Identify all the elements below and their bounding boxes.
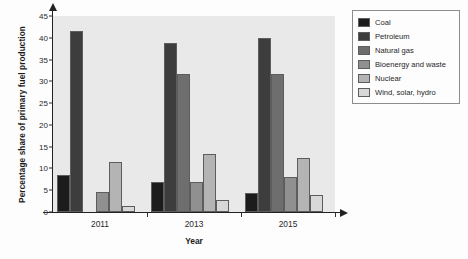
y-tick-label: 5 [44,186,48,195]
x-tick-label-2013: 2013 [185,219,204,229]
y-tick-label: 30 [39,77,48,86]
bar [216,200,229,212]
y-tick-mark [49,37,53,38]
bar [177,74,190,212]
bar [70,31,83,212]
x-tick-label-2015: 2015 [279,219,298,229]
legend-label: Petroleum [375,32,410,41]
y-tick-mark [49,124,53,125]
bar [245,193,258,212]
y-tick-mark [49,146,53,147]
y-tick-mark [49,103,53,104]
legend-item-natural-gas[interactable]: Natural gas [358,43,455,57]
x-tick-mark [241,213,242,217]
legend-swatch-icon [358,18,370,27]
y-axis-arrow-icon [49,3,57,11]
legend-swatch-icon [358,88,370,97]
legend-item-bioenergy-and-waste[interactable]: Bioenergy and waste [358,57,455,71]
bar [109,162,122,212]
x-tick-label-2011: 2011 [91,219,109,229]
bar [57,175,70,212]
x-tick-mark [147,213,148,217]
bar [258,38,271,212]
legend-swatch-icon [358,74,370,83]
bar [310,195,323,212]
bar [122,206,135,212]
y-tick-mark [49,16,53,17]
legend-label: Coal [375,18,391,27]
y-tick-mark [49,212,53,213]
y-tick-mark [49,81,53,82]
bar-group-2013 [151,16,241,212]
chart-legend: CoalPetroleumNatural gasBioenergy and wa… [352,10,460,104]
x-tick-mark [335,213,336,217]
bar [271,74,284,212]
x-axis-arrow-icon [340,209,348,217]
bar [284,177,297,212]
y-axis-title: Percentage share of primary fuel product… [18,0,27,230]
bar [164,43,177,212]
y-tick-label: 45 [39,12,48,21]
legend-label: Nuclear [375,74,401,83]
legend-item-nuclear[interactable]: Nuclear [358,71,455,85]
legend-label: Bioenergy and waste [375,60,446,69]
bar [203,154,216,212]
x-axis-title: Year [53,236,335,246]
y-tick-mark [49,59,53,60]
legend-label: Wind, solar, hydro [375,88,436,97]
bar [96,192,109,212]
legend-item-petroleum[interactable]: Petroleum [358,29,455,43]
legend-item-wind-solar-hydro[interactable]: Wind, solar, hydro [358,85,455,99]
y-tick-label: 0 [44,208,48,217]
legend-item-coal[interactable]: Coal [358,15,455,29]
x-axis-line [43,212,341,213]
y-tick-mark [49,190,53,191]
y-tick-label: 10 [39,164,48,173]
y-tick-label: 15 [39,142,48,151]
y-tick-label: 40 [39,33,48,42]
legend-label: Natural gas [375,46,414,55]
bar [190,182,203,212]
legend-swatch-icon [358,60,370,69]
y-tick-mark [49,168,53,169]
y-tick-label: 25 [39,99,48,108]
plot-area: 051015202530354045 [53,16,335,212]
bar-group-2015 [245,16,335,212]
bar [151,182,164,212]
y-tick-label: 20 [39,120,48,129]
bar-group-2011 [57,16,147,212]
legend-swatch-icon [358,46,370,55]
y-tick-label: 35 [39,55,48,64]
legend-swatch-icon [358,32,370,41]
chart-figure: Percentage share of primary fuel product… [0,0,468,259]
bar [297,158,310,212]
